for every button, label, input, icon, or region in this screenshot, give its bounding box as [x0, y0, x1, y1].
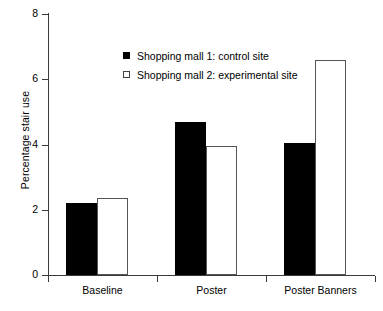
x-tick-label: Poster	[157, 284, 266, 297]
legend-swatch-filled-square-icon	[123, 52, 130, 59]
y-tick-label-wrap: 2	[0, 204, 38, 214]
x-tick-mark	[48, 276, 49, 282]
chart-legend: Shopping mall 1: control site Shopping m…	[123, 47, 333, 85]
bar	[97, 198, 128, 275]
legend-item-experimental-site: Shopping mall 2: experimental site	[123, 66, 333, 83]
y-tick-label: 8	[2, 8, 38, 18]
y-tick-label: 0	[2, 269, 38, 279]
x-tick-label: Poster Banners	[266, 284, 375, 297]
bar	[175, 122, 206, 275]
y-tick-label: 2	[2, 204, 38, 214]
y-tick-label-wrap: 0	[0, 269, 38, 279]
legend-swatch-open-square-icon	[123, 71, 130, 78]
y-tick-label-wrap: 8	[0, 8, 38, 18]
y-tick-label: 4	[2, 139, 38, 149]
bar	[66, 203, 97, 275]
bar	[315, 60, 346, 275]
x-tick-mark	[157, 276, 158, 282]
y-tick-label-wrap: 6	[0, 73, 38, 83]
bar-chart-figure: Percentage stair use 02468 BaselinePoste…	[0, 0, 383, 311]
y-tick-label-wrap: 4	[0, 139, 38, 149]
bar	[206, 146, 237, 275]
legend-label-control-site: Shopping mall 1: control site	[137, 50, 269, 62]
y-tick-label: 6	[2, 73, 38, 83]
legend-label-experimental-site: Shopping mall 2: experimental site	[137, 69, 298, 81]
legend-item-control-site: Shopping mall 1: control site	[123, 47, 333, 64]
x-tick-mark	[266, 276, 267, 282]
x-tick-label: Baseline	[48, 284, 157, 297]
x-axis-line	[48, 275, 375, 276]
x-tick-mark	[375, 276, 376, 282]
bar	[284, 143, 315, 275]
